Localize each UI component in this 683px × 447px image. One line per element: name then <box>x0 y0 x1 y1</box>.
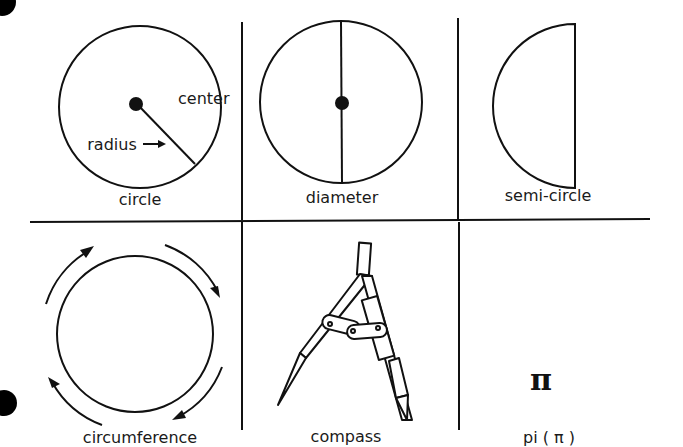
geometry-diagram <box>0 0 683 447</box>
circumference-figure <box>46 245 222 425</box>
diameter-center-point <box>335 96 349 110</box>
compass-label: compass <box>311 427 382 446</box>
grid-lines <box>30 18 650 430</box>
center-label: center <box>178 89 229 108</box>
center-point <box>129 97 143 111</box>
binder-hole-top <box>0 0 16 16</box>
semi-circle-label: semi-circle <box>505 186 592 205</box>
compass-figure <box>278 243 412 420</box>
circumference-arrowheads <box>48 246 220 420</box>
radius-label: radius <box>87 135 136 154</box>
circumference-label: circumference <box>83 428 197 447</box>
semi-circle-figure <box>493 24 575 188</box>
binder-hole-bottom <box>0 390 17 416</box>
pi-label: pi ( π ) <box>523 428 575 447</box>
pi-symbol: π <box>530 362 552 397</box>
circle-label: circle <box>119 190 162 209</box>
diameter-label: diameter <box>306 188 379 207</box>
